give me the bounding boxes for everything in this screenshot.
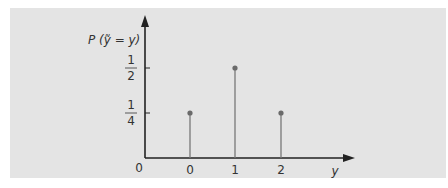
y-tick-quarter-numerator: 1 [127,98,135,112]
origin-label: 0 [135,161,143,175]
x-axis-arrow-icon [343,154,355,162]
y-tick-half-numerator: 1 [127,53,135,67]
y-tick-half-denominator: 2 [127,69,135,83]
x-axis-label: y [330,164,339,178]
x-tick-label-0: 0 [186,163,194,177]
x-tick-label-1: 1 [231,163,239,177]
y-axis-label: P (ỹ = y) [88,33,140,47]
stem-2 [278,110,283,158]
data-point-marker [187,110,192,115]
x-tick-label-2: 2 [277,163,285,177]
data-point-marker [278,110,283,115]
stem-0 [187,110,192,158]
y-axis-arrow-icon [141,15,149,27]
y-tick-quarter-denominator: 4 [127,114,135,128]
stem-chart: P (ỹ = y) 1 2 1 4 0 0 1 2 y [0,0,448,188]
data-point-marker [232,65,237,70]
stem-1 [232,65,237,158]
